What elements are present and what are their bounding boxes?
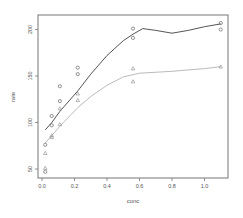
treated-point [76,73,79,76]
y-tick-label: 100 [27,118,33,127]
untreated-smooth-line [45,67,221,143]
plot-area: 0.00.20.40.60.81.0 50100150200 conc rate [0,0,243,218]
y-axis: 50100150200 [27,25,38,172]
y-tick-label: 50 [27,166,33,172]
untreated-point [131,67,135,70]
treated-point [44,170,47,173]
data-points [43,21,222,173]
treated-point [76,66,79,69]
treated-point [44,143,47,146]
treated-point [131,27,134,30]
y-axis-label: rate [10,91,16,102]
treated-point [50,124,53,127]
untreated-point [43,166,47,169]
x-axis: 0.00.20.40.60.81.0 [38,178,208,189]
untreated-point [43,151,47,154]
treated-point [131,36,134,39]
x-tick-label: 0.6 [136,183,144,189]
untreated-point [58,123,62,126]
y-tick-label: 150 [27,71,33,80]
x-tick-label: 0.8 [168,183,176,189]
treated-point [58,85,61,88]
x-tick-label: 0.2 [71,183,79,189]
untreated-point [58,107,62,110]
x-tick-label: 1.0 [201,183,209,189]
untreated-point [131,80,135,83]
puromycin-scatter-chart: 0.00.20.40.60.81.0 50100150200 conc rate [0,0,243,218]
treated-point [50,114,53,117]
x-axis-label: conc [127,198,140,204]
x-tick-label: 0.4 [103,183,111,189]
treated-point [219,28,222,31]
x-tick-label: 0.0 [38,183,46,189]
smooth-lines [45,24,221,143]
y-tick-label: 200 [27,25,33,34]
untreated-point [76,98,80,101]
treated-point [58,100,61,103]
